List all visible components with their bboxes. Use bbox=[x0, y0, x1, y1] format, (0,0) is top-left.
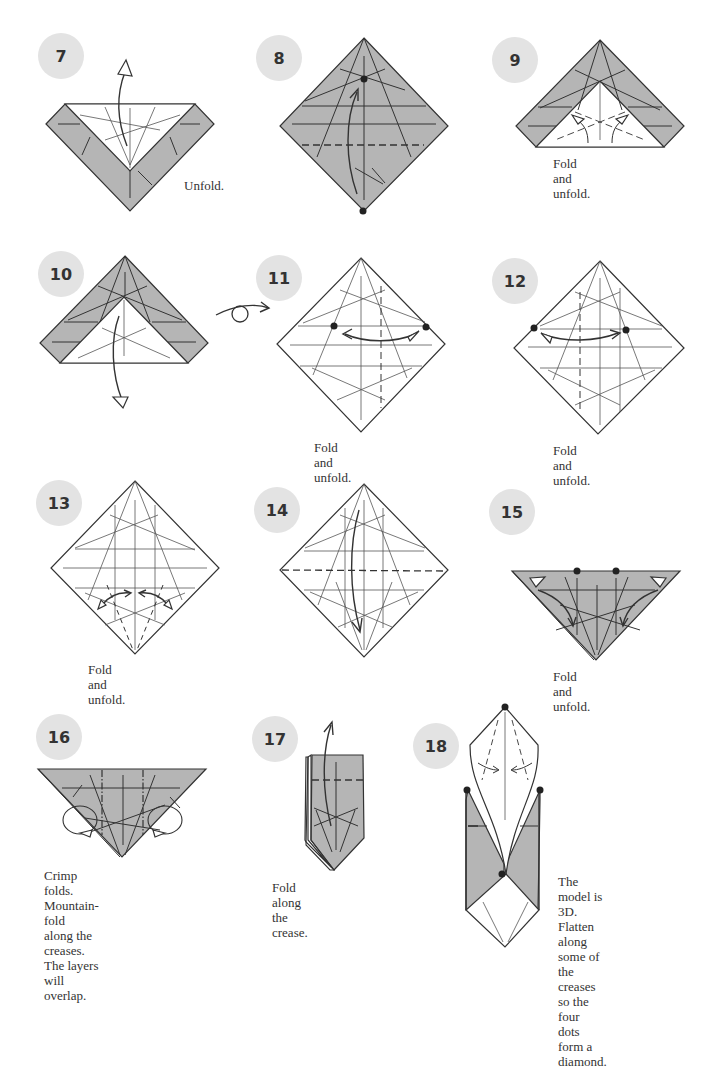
step-caption: The model is 3D. Flatten along some of t… bbox=[558, 874, 607, 1069]
